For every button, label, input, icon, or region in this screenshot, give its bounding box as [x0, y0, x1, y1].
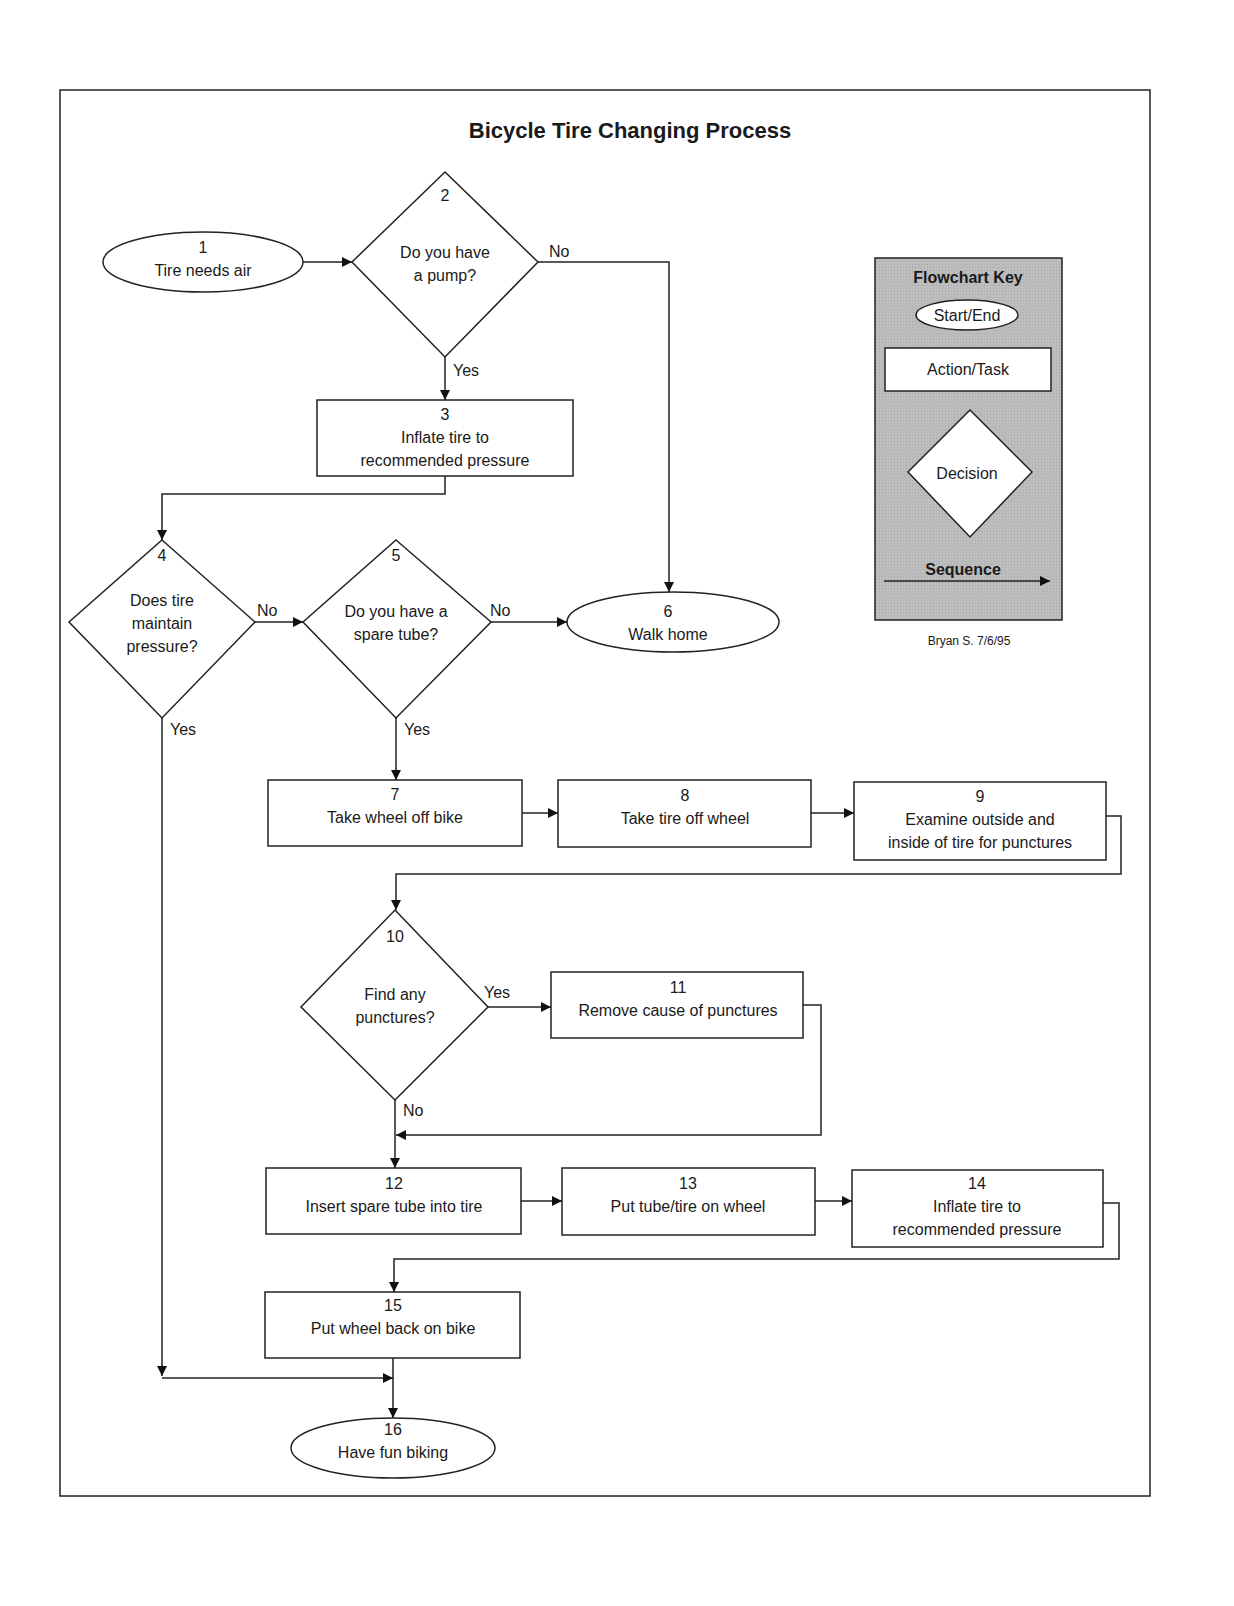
edge-label-5-no: No: [490, 602, 510, 620]
node-number: 13: [611, 1172, 766, 1195]
node-15: 15 Put wheel back on bike: [311, 1294, 476, 1340]
node-1: 1 Tire needs air: [154, 236, 251, 282]
node-11: 11 Remove cause of punctures: [578, 976, 777, 1022]
key-title: Flowchart Key: [913, 266, 1022, 289]
node-number: 15: [311, 1294, 476, 1317]
key-sequence-label: Sequence: [925, 558, 1001, 581]
node-9: 9 Examine outside and inside of tire for…: [888, 785, 1072, 854]
node-number: 5: [392, 544, 401, 567]
node-10: 10: [386, 925, 404, 948]
node-5: 5: [392, 544, 401, 567]
node-6: 6 Walk home: [628, 600, 707, 646]
edge-label-2-yes: Yes: [453, 362, 479, 380]
node-12: 12 Insert spare tube into tire: [306, 1172, 483, 1218]
key-decision-label: Decision: [936, 462, 997, 485]
node-number: 8: [621, 784, 750, 807]
node-label: Tire needs air: [154, 259, 251, 282]
edge-label-4-no: No: [257, 602, 277, 620]
node-4-label: Does tire maintain pressure?: [126, 589, 197, 658]
node-14: 14 Inflate tire to recommended pressure: [893, 1172, 1062, 1241]
node-number: 2: [441, 184, 450, 207]
node-2: 2: [441, 184, 450, 207]
node-16: 16 Have fun biking: [338, 1418, 448, 1464]
node-4: 4: [158, 544, 167, 567]
node-number: 10: [386, 925, 404, 948]
author-credit: Bryan S. 7/6/95: [928, 630, 1011, 653]
key-start-end-label: Start/End: [934, 304, 1001, 327]
node-7: 7 Take wheel off bike: [327, 783, 463, 829]
node-number: 6: [628, 600, 707, 623]
edge-label-2-no: No: [549, 243, 569, 261]
node-number: 14: [893, 1172, 1062, 1195]
node-8: 8 Take tire off wheel: [621, 784, 750, 830]
node-number: 1: [154, 236, 251, 259]
edge-label-10-yes: Yes: [484, 984, 510, 1002]
node-number: 12: [306, 1172, 483, 1195]
node-number: 11: [578, 976, 777, 999]
node-10-label: Find any punctures?: [355, 983, 434, 1029]
node-number: 4: [158, 544, 167, 567]
node-number: 9: [888, 785, 1072, 808]
node-3: 3 Inflate tire to recommended pressure: [361, 403, 530, 472]
node-number: 7: [327, 783, 463, 806]
key-action-label: Action/Task: [927, 358, 1009, 381]
node-13: 13 Put tube/tire on wheel: [611, 1172, 766, 1218]
edge-label-5-yes: Yes: [404, 721, 430, 739]
node-number: 3: [361, 403, 530, 426]
node-5-label: Do you have a spare tube?: [344, 600, 447, 646]
node-2-label: Do you have a pump?: [400, 241, 490, 287]
diagram-title: Bicycle Tire Changing Process: [469, 118, 791, 144]
node-number: 16: [338, 1418, 448, 1441]
edge-label-10-no: No: [403, 1102, 423, 1120]
edge-label-4-yes: Yes: [170, 721, 196, 739]
